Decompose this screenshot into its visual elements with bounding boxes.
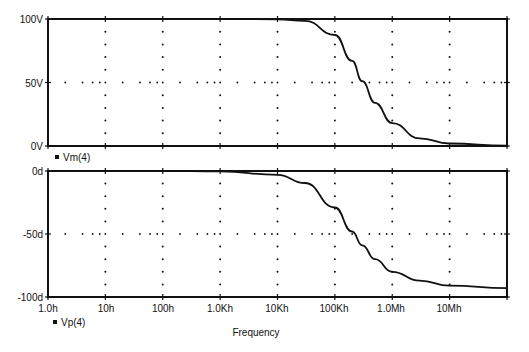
phase-curve xyxy=(48,171,507,288)
x-tick-1kh: 1.0Kh xyxy=(207,303,233,314)
y-tick-50v: 50V xyxy=(25,78,43,89)
y-tick-0v: 0V xyxy=(31,141,44,152)
y-tick-100v: 100V xyxy=(20,14,44,25)
x-tick-10kh: 10Kh xyxy=(265,303,288,314)
x-tick-10h: 10h xyxy=(98,303,115,314)
x-tick-1h: 1.0h xyxy=(38,303,57,314)
legend-vm4: Vm(4) xyxy=(63,152,90,163)
y-tick-minus100d: -100d xyxy=(17,292,43,303)
magnitude-grid xyxy=(64,31,508,135)
y-tick-minus50d: -50d xyxy=(23,229,43,240)
legend-vp4: Vp(4) xyxy=(61,317,85,328)
magnitude-plot: 100V 50V 0V Vm(4) xyxy=(20,14,510,163)
legend-marker-icon xyxy=(53,320,57,324)
x-axis-title: Frequency xyxy=(232,327,279,338)
x-tick-100h: 100h xyxy=(152,303,174,314)
x-tick-100kh: 100Kh xyxy=(320,303,349,314)
phase-grid xyxy=(64,183,508,286)
y-tick-0d: 0d xyxy=(32,166,43,177)
bode-plot: 100V 50V 0V Vm(4) 0d -50d -100d Vp(4) 1.… xyxy=(0,0,529,352)
x-axis: 1.0h 10h 100h 1.0Kh 10Kh 100Kh 1.0Mh 10M… xyxy=(38,303,461,338)
legend-marker-icon xyxy=(55,155,59,159)
x-tick-10mh: 10Mh xyxy=(436,303,461,314)
x-tick-1mh: 1.0Mh xyxy=(377,303,405,314)
